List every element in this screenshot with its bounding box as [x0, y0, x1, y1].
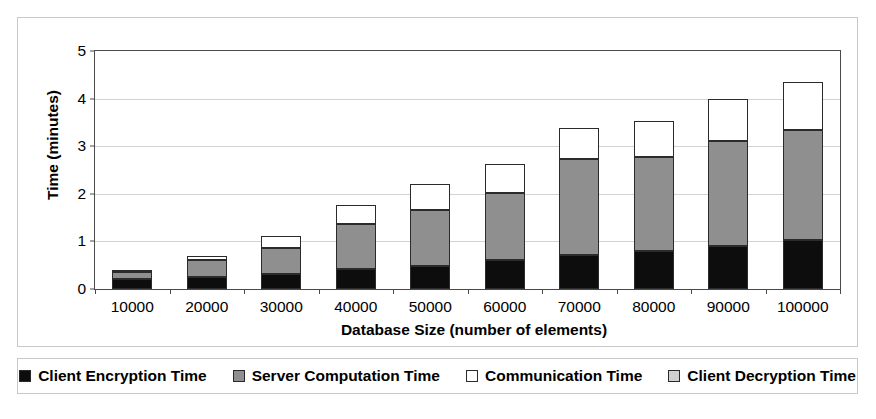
- x-tick-label: 20000: [185, 298, 228, 316]
- x-tick-mark: [319, 289, 320, 294]
- bar-segment: [112, 272, 152, 279]
- legend-item: Client Decryption Time: [668, 367, 856, 385]
- legend-swatch-icon: [233, 370, 245, 382]
- bar-segment: [783, 82, 823, 130]
- stacked-bar: [634, 121, 674, 289]
- legend-swatch-icon: [19, 370, 31, 382]
- legend-item-label: Client Encryption Time: [38, 367, 207, 385]
- bar-segment: [112, 279, 152, 289]
- bar-segment: [485, 164, 525, 193]
- bar-segment: [261, 274, 301, 289]
- bar-segment: [261, 236, 301, 248]
- bar-segment: [336, 205, 376, 225]
- bar-segment: [634, 251, 674, 289]
- x-tick-mark: [840, 289, 841, 294]
- y-tick-mark: [90, 193, 95, 194]
- legend-item: Communication Time: [466, 367, 642, 385]
- y-tick-label: 4: [77, 90, 86, 108]
- x-tick-mark: [617, 289, 618, 294]
- bar-segment: [634, 157, 674, 251]
- bar-segment: [410, 184, 450, 210]
- x-tick-mark: [393, 289, 394, 294]
- stacked-bar: [559, 128, 599, 289]
- legend-item-label: Communication Time: [485, 367, 642, 385]
- legend-item-label: Server Computation Time: [252, 367, 440, 385]
- x-tick-label: 70000: [558, 298, 601, 316]
- bar-segment: [187, 256, 227, 259]
- stacked-bar: [410, 184, 450, 289]
- bar-segment: [708, 99, 748, 141]
- x-tick-mark: [95, 289, 96, 294]
- y-tick-label: 3: [77, 137, 86, 155]
- bar-segment: [410, 266, 450, 289]
- y-tick-label: 5: [77, 42, 86, 60]
- y-tick-mark: [90, 98, 95, 99]
- bar-segment: [336, 269, 376, 289]
- x-axis-title: Database Size (number of elements): [94, 321, 854, 339]
- legend-item-label: Client Decryption Time: [687, 367, 856, 385]
- legend-item: Client Encryption Time: [19, 367, 207, 385]
- chart-legend: Client Encryption TimeServer Computation…: [17, 358, 858, 394]
- bar-segment: [634, 121, 674, 157]
- x-tick-label: 40000: [334, 298, 377, 316]
- bar-segment: [708, 141, 748, 246]
- x-tick-label: 80000: [632, 298, 675, 316]
- stacked-bar: [336, 205, 376, 289]
- bar-segment: [708, 246, 748, 289]
- x-tick-label: 90000: [707, 298, 750, 316]
- x-tick-label: 10000: [111, 298, 154, 316]
- legend-swatch-icon: [466, 370, 478, 382]
- y-tick-mark: [90, 241, 95, 242]
- legend-swatch-icon: [668, 370, 680, 382]
- stacked-bar: [261, 236, 301, 289]
- stacked-bar: [187, 256, 227, 289]
- bar-segment: [485, 260, 525, 289]
- plot-area: 012345 100002000030000400005000060000700…: [94, 50, 841, 290]
- legend-item: Server Computation Time: [233, 367, 440, 385]
- bar-segment: [112, 270, 152, 272]
- y-axis-title: Time (minutes): [44, 50, 62, 240]
- bar-segment: [559, 255, 599, 289]
- bar-segment: [485, 193, 525, 260]
- bar-segment: [336, 224, 376, 269]
- x-tick-label: 60000: [483, 298, 526, 316]
- stacked-bar: [783, 82, 823, 289]
- bar-segment: [261, 248, 301, 274]
- y-tick-label: 1: [77, 232, 86, 250]
- stacked-bar: [708, 99, 748, 289]
- stacked-bar: [112, 270, 152, 289]
- chart-screenshot: Time (minutes) Database Size (number of …: [0, 0, 876, 419]
- x-tick-mark: [468, 289, 469, 294]
- x-tick-mark: [766, 289, 767, 294]
- bar-segment: [783, 130, 823, 241]
- x-tick-label: 100000: [777, 298, 829, 316]
- x-tick-mark: [170, 289, 171, 294]
- x-tick-label: 30000: [260, 298, 303, 316]
- x-tick-mark: [542, 289, 543, 294]
- stacked-bar: [485, 164, 525, 289]
- y-tick-label: 0: [77, 280, 86, 298]
- x-tick-mark: [244, 289, 245, 294]
- bar-segment: [410, 210, 450, 266]
- chart-frame: Time (minutes) Database Size (number of …: [17, 17, 858, 347]
- y-tick-mark: [90, 51, 95, 52]
- bar-segment: [187, 277, 227, 289]
- bar-segment: [187, 260, 227, 277]
- bar-segment: [559, 159, 599, 255]
- y-tick-mark: [90, 146, 95, 147]
- bar-segment: [783, 240, 823, 289]
- y-tick-label: 2: [77, 185, 86, 203]
- bar-segment: [559, 128, 599, 159]
- x-tick-label: 50000: [409, 298, 452, 316]
- x-tick-mark: [691, 289, 692, 294]
